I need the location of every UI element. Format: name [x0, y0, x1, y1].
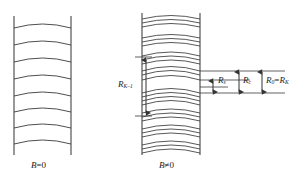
energy-level-arc [142, 109, 200, 113]
energy-level-arc [142, 141, 200, 145]
energy-level-arc [14, 124, 71, 128]
left-panel-group [14, 16, 71, 155]
energy-level-arc [142, 125, 200, 129]
right-panel-levels [142, 16, 200, 154]
energy-level-arc [14, 140, 71, 144]
label-rk-minus-1: RK–1 [118, 80, 133, 90]
energy-level-arc [142, 133, 200, 137]
energy-level-arc [142, 35, 200, 39]
left-panel-levels [14, 24, 71, 144]
landau-level-figure: B=0 B≠0 RK–1 Rs Rc R0=RK [0, 0, 291, 183]
right-panel-group [142, 13, 200, 155]
label-rc: Rc [243, 76, 251, 86]
label-rs-subscript: s [224, 79, 226, 85]
energy-level-arc [142, 24, 200, 28]
right-panel-caption-value: 0 [169, 160, 174, 170]
energy-level-arc [142, 149, 200, 153]
energy-level-arc [142, 39, 200, 43]
figure-canvas [0, 0, 291, 183]
energy-level-arc [142, 101, 200, 106]
energy-level-arc [142, 60, 200, 64]
energy-level-arc [142, 52, 200, 56]
energy-level-arc [14, 58, 71, 62]
label-rk-minus-1-subscript: K–1 [124, 83, 133, 89]
left-panel-caption-value: 0 [42, 160, 47, 170]
annotation-arrow-rk-minus-1 [135, 57, 152, 116]
label-r0-equals-rk: R0=RK [266, 76, 289, 86]
energy-level-arc [142, 43, 200, 47]
energy-level-arc [14, 24, 71, 28]
energy-level-arc [142, 16, 200, 20]
left-panel-caption: B=0 [31, 161, 46, 170]
label-rs: Rs [218, 76, 226, 86]
energy-level-arc [14, 92, 71, 96]
right-panel-caption: B≠0 [159, 161, 174, 170]
energy-level-arc [14, 108, 71, 112]
label-rc-subscript: c [249, 79, 251, 85]
energy-level-arc [14, 75, 71, 79]
energy-level-arc [142, 76, 200, 81]
energy-level-arc [142, 117, 200, 121]
energy-level-arc [142, 71, 200, 76]
energy-level-arc [142, 20, 200, 24]
energy-level-arc [142, 145, 200, 149]
energy-level-arc [142, 129, 200, 133]
energy-level-arc [14, 41, 71, 45]
label-rk-subscript: K [285, 79, 289, 85]
